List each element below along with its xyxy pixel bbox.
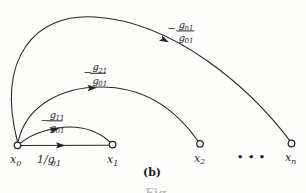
node-x1-label-sub: 1 xyxy=(113,159,118,168)
gain-direct-label-sub: 01 xyxy=(51,159,61,168)
denominator-sub: 01 xyxy=(185,37,194,45)
node-x2-label-sub: 2 xyxy=(199,157,205,166)
minus-sign: − xyxy=(168,23,176,34)
denominator-sub: 01 xyxy=(98,80,107,88)
signal-flow-graph: x 0 x 1 x 2 x n 1/g 01 − g 11 g 01 − g 2… xyxy=(0,0,306,193)
node-x0-label-sub: 0 xyxy=(16,159,21,168)
node-x1 xyxy=(109,141,116,148)
node-x0 xyxy=(14,142,21,149)
gain-x2-arc-fraction: − g 21 g 01 xyxy=(84,61,108,88)
gain-xn-arc-fraction: − g n1 g 01 xyxy=(168,19,195,46)
arrowhead-xn-arc-icon xyxy=(159,35,170,45)
node-x2 xyxy=(197,141,204,148)
panel-label: (b) xyxy=(143,166,161,179)
cropped-caption-fragment: Fig. xyxy=(127,187,189,193)
ellipsis-dots: ••• xyxy=(237,151,270,162)
edge-x1-to-x0-arc xyxy=(21,127,111,143)
denominator-sub: 01 xyxy=(56,127,65,135)
node-xn-label-sub: n xyxy=(291,157,296,166)
node-xn xyxy=(288,140,295,147)
